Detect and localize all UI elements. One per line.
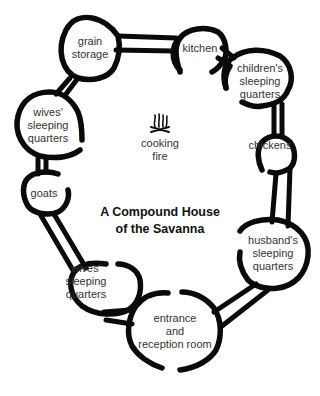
passage-entrance-wives [104, 310, 130, 312]
diagram-title: A Compound House of the Savanna [100, 204, 220, 238]
passage-husbands-entrance [214, 284, 256, 312]
room-label-wives-lower: wives' sleeping quarters [66, 262, 107, 301]
room-label-wives-upper: wives' sleeping quarters [28, 106, 69, 145]
room-label-chickens: chickens [249, 139, 292, 152]
fire-icon [148, 113, 172, 135]
center-line1: cooking [141, 137, 179, 150]
room-label-kitchen: kitchen [183, 42, 218, 55]
room-label-childrens: children's sleeping quarters [237, 62, 283, 101]
passage-grain-kitchen [116, 50, 174, 51]
passage-chickens-husbands [272, 174, 276, 222]
passage-wives-goats [54, 214, 86, 268]
center-label: cooking fire [141, 137, 179, 163]
room-outline-childrens-left [225, 66, 230, 88]
room-label-husbands: husband's sleeping quarters [248, 234, 298, 273]
passage-chickens-husbands [288, 168, 290, 226]
passage-grain-kitchen [118, 36, 176, 38]
title-line2: of the Savanna [100, 221, 220, 238]
title-line1: A Compound House [100, 204, 220, 221]
room-label-goats: goats [31, 187, 58, 200]
room-label-entrance: entrance and reception room [138, 312, 211, 351]
center-line2: fire [141, 150, 179, 163]
passage-husbands-entrance [222, 290, 268, 326]
room-label-grain-storage: grain storage [72, 35, 109, 61]
